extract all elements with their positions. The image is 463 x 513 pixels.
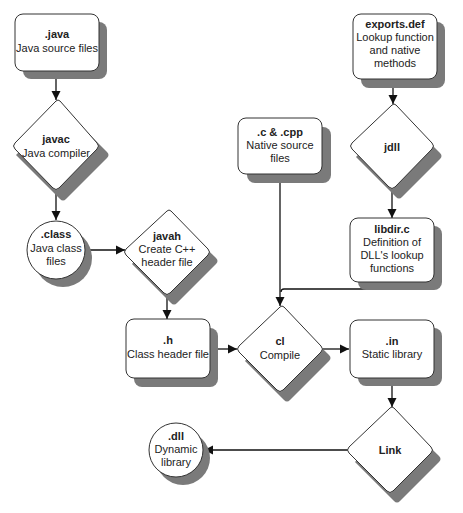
node-label-line: Static library <box>362 348 423 360</box>
node-label-line: Class header file <box>127 348 209 360</box>
node-link[interactable]: Link <box>348 407 441 503</box>
node-class-header[interactable]: .h Class header file <box>126 319 218 387</box>
node-dynamic-library[interactable]: .dll Dynamic library <box>149 423 210 485</box>
node-label-line: Lookup function <box>356 31 434 43</box>
node-label-line: files <box>46 255 66 267</box>
node-label-line: Native source <box>246 139 313 151</box>
node-title: javah <box>152 230 181 242</box>
node-label-line: Definition of <box>363 236 422 248</box>
node-title: .c & .cpp <box>257 126 303 138</box>
node-class-files[interactable]: .class Java class files <box>27 221 92 287</box>
node-title: .dll <box>168 430 184 442</box>
node-title: exports.def <box>365 18 425 30</box>
node-label-line: header file <box>141 256 192 268</box>
node-title: Link <box>379 444 402 456</box>
node-label-line: Java source files <box>16 42 98 54</box>
node-label-line: and native <box>370 44 421 56</box>
node-label-line: methods <box>374 57 417 69</box>
node-label-line: DLL's lookup <box>360 249 423 261</box>
node-label-line: Create C++ <box>139 243 196 255</box>
node-label-line: Compile <box>260 349 300 361</box>
node-title: .h <box>163 334 173 346</box>
node-libdir[interactable]: libdir.c Definition of DLL's lookup func… <box>350 218 442 290</box>
node-label-line: Dynamic <box>155 443 198 455</box>
node-title: .java <box>45 28 70 40</box>
node-label-line: Java compiler <box>22 147 90 159</box>
node-label-line: library <box>161 456 191 468</box>
node-title: cl <box>275 335 284 347</box>
node-title: libdir.c <box>374 223 409 235</box>
node-exports-def[interactable]: exports.def Lookup function and native m… <box>353 14 445 88</box>
node-title: jdll <box>383 141 400 153</box>
node-native-source[interactable]: .c & .cpp Native source files <box>238 118 331 183</box>
node-cl-compile[interactable]: cl Compile <box>238 306 331 402</box>
node-java-source[interactable]: .java Java source files <box>15 14 107 79</box>
node-title: .class <box>41 228 72 240</box>
node-title: javac <box>41 133 70 145</box>
node-javah[interactable]: javah Create C++ header file <box>125 210 218 305</box>
node-jdll[interactable]: jdll <box>351 104 442 199</box>
node-label-line: Java class <box>30 242 82 254</box>
node-label-line: files <box>270 152 290 164</box>
edges <box>56 71 393 450</box>
node-title: .in <box>386 335 399 347</box>
node-javac-compiler[interactable]: javac Java compiler <box>14 100 109 201</box>
flowchart-canvas: .java Java source files javac Java compi… <box>0 0 463 513</box>
node-label-line: functions <box>370 262 415 274</box>
node-static-library[interactable]: .in Static library <box>350 320 442 386</box>
